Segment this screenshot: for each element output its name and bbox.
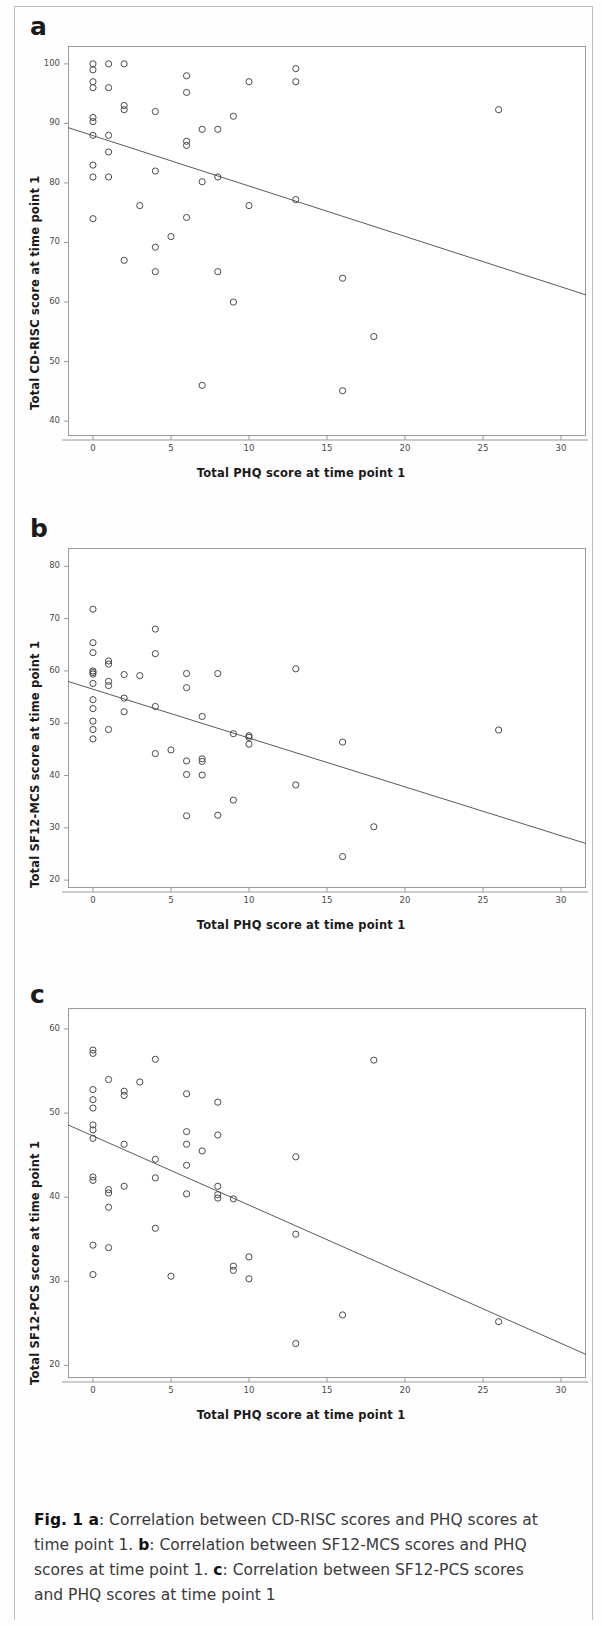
plot-c: 2030405060051015202530 <box>68 1008 586 1378</box>
data-point <box>246 202 252 208</box>
y-tick-label: 60 <box>34 665 60 675</box>
x-tick-label: 10 <box>235 895 263 905</box>
data-point <box>90 1242 96 1248</box>
x-tick-label: 0 <box>79 1385 107 1395</box>
data-point <box>293 66 299 72</box>
data-point <box>105 1245 111 1251</box>
data-point <box>293 1340 299 1346</box>
x-axis-title-c: Total PHQ score at time point 1 <box>0 1408 602 1422</box>
data-point <box>121 1092 127 1098</box>
data-point <box>90 162 96 168</box>
data-point <box>152 168 158 174</box>
data-point <box>246 79 252 85</box>
y-tick-label: 90 <box>34 117 60 127</box>
data-point <box>152 244 158 250</box>
x-tick-label: 10 <box>235 443 263 453</box>
x-tick-label: 5 <box>157 1385 185 1395</box>
data-point <box>90 79 96 85</box>
x-tick-label: 0 <box>79 895 107 905</box>
figure-sheet: a Total CD-RISC score at time point 1 40… <box>0 0 602 1626</box>
caption-segment-0: Fig. 1 <box>34 1511 88 1529</box>
data-point <box>121 257 127 263</box>
data-point <box>90 705 96 711</box>
data-point <box>293 782 299 788</box>
data-point <box>183 670 189 676</box>
plot-canvas-b <box>68 548 586 888</box>
y-tick-label: 30 <box>34 1275 60 1285</box>
data-point <box>230 113 236 119</box>
data-point <box>121 671 127 677</box>
data-point <box>183 1162 189 1168</box>
x-tick-label: 25 <box>469 895 497 905</box>
y-tick-label: 40 <box>34 415 60 425</box>
data-point <box>105 132 111 138</box>
data-point <box>199 179 205 185</box>
x-tick-label: 20 <box>391 1385 419 1395</box>
data-point <box>199 1148 205 1154</box>
data-point <box>90 606 96 612</box>
data-point <box>152 651 158 657</box>
data-point <box>340 739 346 745</box>
data-point <box>152 108 158 114</box>
y-tick-label: 20 <box>34 1359 60 1369</box>
data-point <box>371 333 377 339</box>
x-tick-label: 20 <box>391 443 419 453</box>
data-point <box>246 1276 252 1282</box>
regression-line-a <box>68 128 586 295</box>
x-tick-label: 25 <box>469 443 497 453</box>
data-point <box>183 1141 189 1147</box>
axis-ticks-a <box>62 64 588 440</box>
y-tick-label: 50 <box>34 717 60 727</box>
data-point <box>90 1105 96 1111</box>
data-point <box>183 813 189 819</box>
data-point <box>199 772 205 778</box>
scatter-points-a <box>90 61 502 394</box>
y-tick-label: 30 <box>34 822 60 832</box>
data-point <box>246 741 252 747</box>
data-point <box>90 1097 96 1103</box>
data-point <box>137 673 143 679</box>
x-axis-title-b: Total PHQ score at time point 1 <box>0 918 602 932</box>
data-point <box>371 824 377 830</box>
data-point <box>105 149 111 155</box>
y-tick-label: 20 <box>34 874 60 884</box>
x-tick-label: 30 <box>547 895 575 905</box>
data-point <box>293 1231 299 1237</box>
x-tick-label: 5 <box>157 443 185 453</box>
data-point <box>183 89 189 95</box>
panel-b: b Total SF12-MCS score at time point 1 2… <box>0 500 602 950</box>
data-point <box>215 269 221 275</box>
data-point <box>183 73 189 79</box>
data-point <box>340 854 346 860</box>
caption-segment-1: a <box>88 1511 98 1529</box>
data-point <box>90 216 96 222</box>
y-tick-label: 50 <box>34 356 60 366</box>
data-point <box>105 726 111 732</box>
y-tick-label: 80 <box>34 560 60 570</box>
scatter-points-c <box>90 1047 502 1347</box>
data-point <box>199 382 205 388</box>
data-point <box>90 174 96 180</box>
data-point <box>105 1076 111 1082</box>
panel-letter-a: a <box>30 14 47 39</box>
x-tick-label: 5 <box>157 895 185 905</box>
data-point <box>90 1271 96 1277</box>
data-point <box>246 1254 252 1260</box>
x-tick-label: 10 <box>235 1385 263 1395</box>
data-point <box>121 1141 127 1147</box>
caption-segment-3: b <box>138 1536 149 1554</box>
data-point <box>90 67 96 73</box>
data-point <box>90 718 96 724</box>
axis-ticks-b <box>62 566 588 892</box>
data-point <box>105 174 111 180</box>
data-point <box>152 1225 158 1231</box>
y-tick-label: 80 <box>34 177 60 187</box>
data-point <box>293 197 299 203</box>
data-point <box>105 1204 111 1210</box>
data-point <box>215 1099 221 1105</box>
data-point <box>215 126 221 132</box>
data-point <box>496 1319 502 1325</box>
data-point <box>183 214 189 220</box>
plot-canvas-c <box>68 1008 586 1378</box>
y-tick-label: 40 <box>34 1191 60 1201</box>
